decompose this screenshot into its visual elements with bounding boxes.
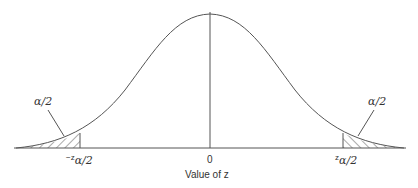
- right-critical-sub: α/2: [339, 154, 357, 167]
- left-tail-area: [16, 133, 80, 148]
- left-tail-leader: [48, 110, 64, 136]
- right-critical-value: zα/2: [335, 155, 357, 166]
- right-critical-prefix: z: [335, 153, 339, 162]
- center-tick-label: 0: [207, 155, 213, 165]
- left-tail-label: α/2: [34, 96, 52, 107]
- right-tail-leader: [358, 110, 374, 136]
- right-tail-label: α/2: [368, 96, 386, 107]
- x-axis-label: Value of z: [185, 170, 229, 180]
- left-critical-sub: α/2: [75, 154, 93, 167]
- left-critical-prefix: −z: [66, 153, 75, 162]
- left-critical-value: −zα/2: [66, 155, 93, 166]
